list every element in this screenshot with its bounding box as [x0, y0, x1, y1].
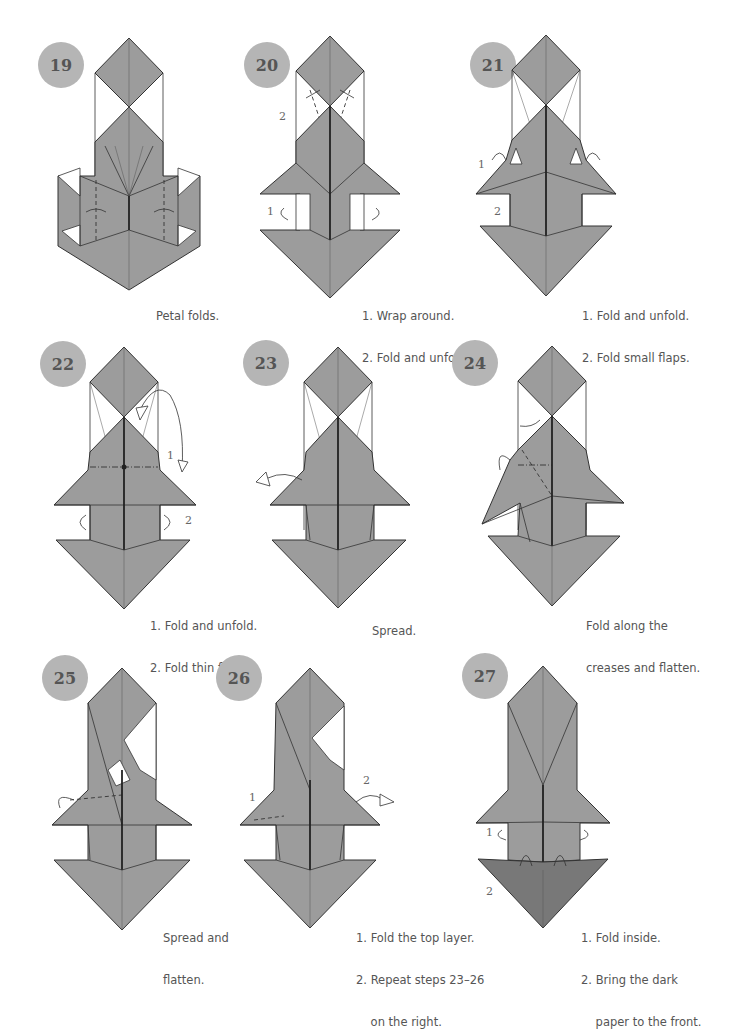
sub-step-label: 1: [249, 791, 256, 804]
sub-step-label: 1: [267, 205, 274, 218]
base-body: [54, 417, 196, 609]
sub-step-label: 1: [486, 826, 493, 839]
base-body: [482, 416, 624, 606]
sub-step-label: 2: [279, 110, 286, 123]
base-body: [270, 417, 410, 608]
sub-step-label: 2: [363, 774, 370, 787]
origami-diagram-step-24: [470, 310, 733, 620]
origami-diagram-step-20: [240, 0, 490, 310]
origami-diagram-step-21: [470, 0, 733, 310]
sub-step-label: 2: [185, 514, 192, 527]
step-caption: 1. Fold inside. 2. Bring the dark paper …: [581, 903, 701, 1033]
sub-step-label: 1: [478, 158, 485, 171]
origami-diagram-step-19: [0, 0, 250, 310]
sub-step-label: 2: [494, 205, 501, 218]
origami-diagram-step-22: [0, 310, 250, 620]
sub-step-label: 2: [486, 885, 493, 898]
sub-step-label: 1: [167, 449, 174, 462]
